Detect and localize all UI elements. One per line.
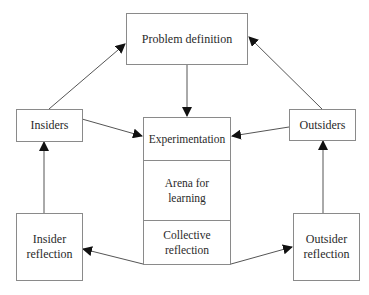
outsiders-box: Outsiders [289, 109, 356, 141]
insider-reflection-line2: reflection [27, 247, 73, 262]
arrow-insiders-to-experimentation [82, 119, 142, 136]
arrow-outsiders-to-problem [249, 37, 322, 109]
collective-label-line1: Collective [163, 228, 210, 243]
outsiders-label: Outsiders [300, 118, 346, 133]
collective-label-line2: reflection [165, 243, 209, 258]
outsider-reflection-line2: reflection [304, 247, 350, 262]
outsider-reflection-box: Outsider reflection [293, 213, 360, 281]
problem-definition-box: Problem definition [126, 13, 248, 65]
arena-label-line2: learning [168, 191, 206, 206]
outsider-reflection-line1: Outsider [306, 232, 347, 247]
insiders-label: Insiders [31, 118, 69, 133]
arena-label-line1: Arena for [165, 176, 209, 191]
collective-reflection-cell: Collective reflection [143, 220, 231, 265]
experimentation-cell: Experimentation [143, 117, 231, 161]
problem-definition-label: Problem definition [142, 32, 232, 47]
insider-reflection-box: Insider reflection [16, 213, 83, 281]
insiders-box: Insiders [16, 109, 83, 142]
arena-for-learning-cell: Arena for learning [143, 160, 231, 221]
insider-reflection-line1: Insider [33, 232, 66, 247]
arrow-collective-to-outsider-reflection [231, 247, 292, 264]
arrow-collective-to-insider-reflection [83, 249, 143, 264]
arrow-outsiders-to-experimentation [232, 127, 289, 136]
experimentation-label: Experimentation [149, 132, 226, 147]
arrow-insiders-to-problem [49, 44, 125, 109]
